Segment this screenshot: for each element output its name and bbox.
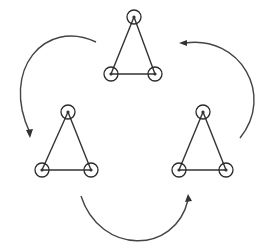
curved-arrow-top-to-left <box>20 36 96 138</box>
triangles-group <box>35 10 233 177</box>
triangle-edge <box>68 112 91 170</box>
arrow-arc <box>81 196 188 241</box>
arrowhead-icon <box>26 129 33 138</box>
rotation-cycle-diagram <box>0 0 269 251</box>
arrowhead-icon <box>179 40 187 46</box>
triangle-edge <box>203 112 226 170</box>
triangle-right <box>172 105 233 177</box>
vertex-dot <box>177 168 180 171</box>
vertex-dot <box>89 168 92 171</box>
vertex-dot <box>132 15 135 18</box>
vertex-dot <box>66 110 69 113</box>
curved-arrow-left-to-right <box>81 194 192 241</box>
triangle-edge <box>111 17 134 74</box>
triangle-top <box>104 10 162 81</box>
arrowhead-icon <box>185 194 192 202</box>
vertex-dot <box>224 168 227 171</box>
curved-arrow-right-to-top <box>179 40 254 138</box>
vertex-dot <box>109 72 112 75</box>
triangle-edge <box>134 17 155 74</box>
triangle-edge <box>179 112 203 170</box>
arrow-arc <box>20 36 96 133</box>
vertex-dot <box>40 168 43 171</box>
triangle-left <box>35 105 98 177</box>
vertex-dot <box>153 72 156 75</box>
vertex-dot <box>201 110 204 113</box>
arrow-arc <box>185 42 254 138</box>
triangle-edge <box>42 112 68 170</box>
